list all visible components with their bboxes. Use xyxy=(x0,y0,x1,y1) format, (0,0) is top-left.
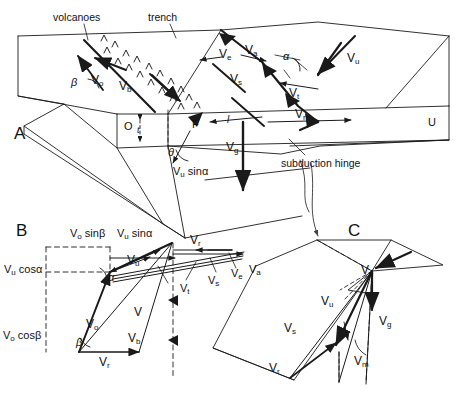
vector-label-Vusina-A: Vu sinα xyxy=(173,166,208,179)
vector-label-Vo-B: Vo xyxy=(86,318,98,332)
length-label-l: l xyxy=(227,115,229,125)
vector-Vo-B xyxy=(79,272,110,352)
angle-label-beta-B: β xyxy=(76,337,82,348)
vector-label-Ve-A: Ve xyxy=(219,48,231,62)
angle-label-alpha-B: α xyxy=(108,272,114,283)
vector-label-Vb-A: Vb xyxy=(119,80,131,94)
vector-label-Vr-B-top: Vr xyxy=(190,234,201,248)
vector-label-V-B: V xyxy=(134,306,142,318)
panelA-block-outline xyxy=(18,22,449,238)
panelA-velocity-arrows xyxy=(78,56,264,126)
vector-label-Vu-B: Vu xyxy=(127,254,139,268)
vector-label-Vs-A: Vs xyxy=(230,73,242,87)
vector-label-Vr-C: Vr xyxy=(269,362,280,376)
panelC-pointer-curve xyxy=(311,163,318,236)
thickness-label-t: t xyxy=(137,126,140,135)
vector-label-Vu-top-C: Vu xyxy=(361,264,373,278)
plate-label-U: U xyxy=(428,117,436,128)
vector-label-Vu-A: Vu xyxy=(347,52,359,66)
vector-label-Vm-C: Vm xyxy=(354,355,369,369)
vector-label-Vr-B-bottom: Vr xyxy=(99,356,110,370)
panel-letter-A: A xyxy=(14,125,25,142)
vector-label-Ve-B: Ve xyxy=(231,268,243,281)
angle-theta-arc xyxy=(176,150,188,161)
vector-label-Vs-C: Vs xyxy=(284,322,296,336)
vector-label-Vs-B: Vs xyxy=(208,275,219,288)
vector-Vu-top-C xyxy=(376,252,411,268)
panelB-vector-triangle xyxy=(79,243,172,352)
panel-letter-B: B xyxy=(16,222,27,239)
vector-label-Vt-B: Vt xyxy=(180,283,190,296)
vector-V-B xyxy=(79,243,172,352)
component-label-Vosinbeta: Vo sinβ xyxy=(70,228,105,241)
vector-label-Vg-C: Vg xyxy=(379,315,391,329)
angle-label-alpha-A: α xyxy=(283,51,289,62)
plate-label-O: O xyxy=(124,121,133,132)
component-label-Vocosbeta: Vo cosβ xyxy=(3,330,41,343)
panel-letter-C: C xyxy=(348,222,360,239)
vector-label-Va-B: Va xyxy=(249,264,261,277)
label-trench: trench xyxy=(148,12,177,23)
vector-label-Vu-C: Vu xyxy=(321,295,333,309)
angle-alpha-B xyxy=(100,268,107,280)
angle-label-beta-A: β xyxy=(71,77,77,88)
label-volcanoes: volcanoes xyxy=(53,12,100,23)
label-subduction-hinge: subduction hinge xyxy=(281,158,360,169)
angle-label-theta-A: θ xyxy=(168,147,174,158)
vector-label-Vb-B: Vb xyxy=(128,332,140,346)
panelC-block-outline xyxy=(213,240,443,380)
component-label-Vucosalpha: Vu cosα xyxy=(4,264,42,277)
vector-l-arrow xyxy=(210,117,262,122)
component-label-Vusinalpha: Vu sinα xyxy=(117,228,152,241)
panelC-velocity-arrows xyxy=(290,252,411,384)
vector-label-Va-A: Va xyxy=(245,44,257,58)
figure-canvas: volcanoes trench subduction hinge A B C … xyxy=(0,0,455,406)
vector-label-Vr-A: Vr xyxy=(295,108,306,122)
vector-label-Vo-A: Vo xyxy=(91,74,103,88)
plate-label-F: F xyxy=(192,119,199,130)
vector-label-Vg-A: Vg xyxy=(226,141,238,155)
vector-label-Vt-A: Vt xyxy=(289,87,299,101)
